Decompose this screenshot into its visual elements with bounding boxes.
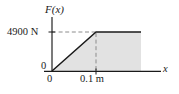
y-axis-title: F(x)	[45, 4, 64, 15]
area-under-curve-shading	[52, 32, 141, 71]
x-axis-tick-label: 0.1 m	[80, 74, 104, 85]
x-axis-origin-label: 0	[47, 74, 52, 85]
y-axis-value-label: 4900 N	[7, 27, 38, 38]
y-axis-origin-label: 0	[41, 61, 46, 72]
x-axis-title: x	[163, 64, 168, 75]
force-position-figure: F(x) 4900 N 0 0 0.1 m x	[0, 0, 179, 94]
